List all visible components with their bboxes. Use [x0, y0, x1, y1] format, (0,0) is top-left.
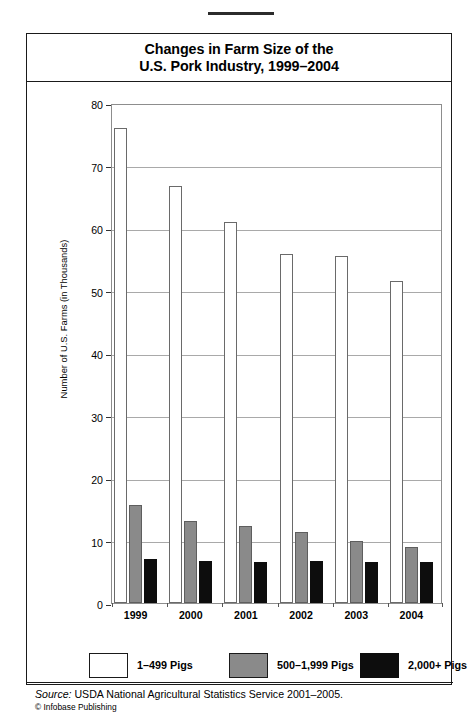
bar — [144, 559, 157, 603]
source-divider — [27, 682, 453, 683]
bar — [169, 186, 182, 603]
plot-area: 0102030405060708019992000200120022003200… — [111, 104, 442, 604]
y-axis-tick-mark — [106, 542, 111, 543]
bar-group — [169, 105, 212, 603]
y-axis-tick-label: 50 — [91, 287, 103, 298]
bar — [280, 254, 293, 603]
bar — [335, 256, 348, 603]
x-axis-tick-mark — [222, 603, 223, 607]
bar — [129, 505, 142, 603]
y-axis-tick-label: 70 — [91, 162, 103, 173]
y-axis-tick-label: 80 — [91, 100, 103, 111]
x-axis-tick-mark — [333, 603, 334, 607]
legend-label: 2,000+ Pigs — [408, 659, 467, 671]
legend-swatch — [360, 653, 399, 678]
credit-line: © Infobase Publishing — [35, 701, 451, 713]
y-axis-title: Number of U.S. Farms (in Thousands) — [59, 219, 69, 419]
bar — [254, 562, 267, 603]
bar — [310, 561, 323, 603]
legend-label: 1–499 Pigs — [137, 659, 193, 671]
bar — [365, 562, 378, 603]
top-decorative-rule — [208, 12, 274, 15]
chart-title-block: Changes in Farm Size of the U.S. Pork In… — [27, 34, 451, 82]
x-axis-tick-mark — [278, 603, 279, 607]
x-axis-tick-mark — [388, 603, 389, 607]
y-axis-tick-mark — [106, 230, 111, 231]
source-text: USDA National Agricultural Statistics Se… — [72, 688, 343, 700]
bar — [184, 521, 197, 604]
bar — [224, 222, 237, 603]
x-axis-tick-mark — [442, 603, 443, 607]
source-line: Source: USDA National Agricultural Stati… — [35, 687, 451, 701]
y-axis-tick-label: 10 — [91, 537, 103, 548]
figure-frame: Changes in Farm Size of the U.S. Pork In… — [26, 33, 452, 685]
bar-group — [224, 105, 267, 603]
x-axis-tick-mark — [112, 603, 113, 607]
y-axis-tick-mark — [106, 105, 111, 106]
y-axis-tick-label: 30 — [91, 412, 103, 423]
bar — [114, 128, 127, 603]
y-axis-tick-mark — [106, 167, 111, 168]
y-axis-tick-label: 0 — [97, 600, 103, 611]
legend-item: 500–1,999 Pigs — [229, 653, 354, 678]
bar-group — [335, 105, 378, 603]
chart-title-line-1: Changes in Farm Size of the — [145, 41, 334, 58]
x-axis-tick-label: 2003 — [344, 609, 368, 621]
bar — [199, 561, 212, 603]
bar — [295, 532, 308, 603]
legend-item: 1–499 Pigs — [89, 653, 193, 678]
x-axis-tick-label: 2001 — [234, 609, 258, 621]
bar — [350, 541, 363, 604]
y-axis-tick-label: 20 — [91, 475, 103, 486]
bar — [390, 281, 403, 603]
y-axis-tick-mark — [106, 292, 111, 293]
y-axis-tick-mark — [106, 480, 111, 481]
source-label: Source: — [35, 688, 72, 700]
bar — [420, 562, 433, 603]
y-axis-tick-label: 40 — [91, 350, 103, 361]
chart-legend: 1–499 Pigs500–1,999 Pigs2,000+ Pigs — [27, 648, 453, 682]
x-axis-tick-label: 2000 — [179, 609, 203, 621]
bar-group — [280, 105, 323, 603]
y-axis-tick-label: 60 — [91, 225, 103, 236]
y-axis-tick-mark — [106, 417, 111, 418]
chart-title-line-2: U.S. Pork Industry, 1999–2004 — [139, 58, 338, 75]
y-axis-tick-mark — [106, 605, 111, 606]
x-axis-tick-label: 2004 — [400, 609, 424, 621]
legend-swatch — [89, 653, 128, 678]
bar — [239, 526, 252, 603]
chart-area: Number of U.S. Farms (in Thousands) 0102… — [27, 82, 453, 635]
source-block: Source: USDA National Agricultural Stati… — [35, 687, 451, 713]
legend-label: 500–1,999 Pigs — [277, 659, 354, 671]
x-axis-tick-mark — [167, 603, 168, 607]
bar-group — [114, 105, 157, 603]
legend-swatch — [229, 653, 268, 678]
x-axis-tick-label: 1999 — [124, 609, 148, 621]
y-axis-tick-mark — [106, 355, 111, 356]
bar — [405, 547, 418, 603]
bar-group — [390, 105, 433, 603]
x-axis-tick-label: 2002 — [289, 609, 313, 621]
legend-item: 2,000+ Pigs — [360, 653, 467, 678]
